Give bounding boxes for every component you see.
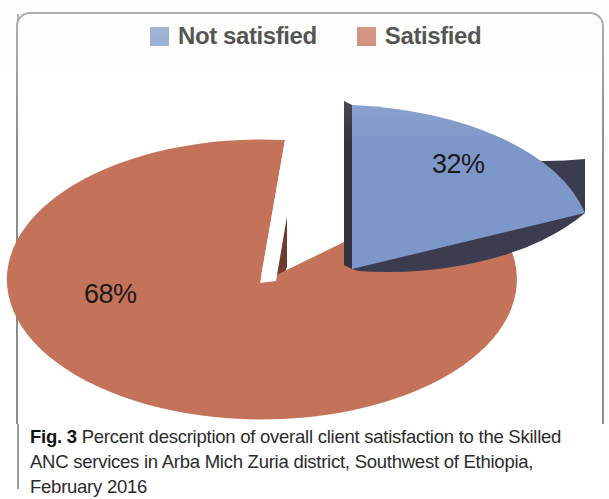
legend-swatch-not-satisfied-icon xyxy=(150,27,169,46)
figure-caption-tag: Fig. 3 xyxy=(30,426,77,447)
pie-slice-not-satisfied-left-wall xyxy=(344,101,352,269)
legend-item-not-satisfied[interactable]: Not satisfied xyxy=(150,24,317,48)
figure-caption: Fig. 3 Percent description of overall cl… xyxy=(30,424,597,499)
chart-legend: Not satisfied Satisfied xyxy=(150,24,481,48)
pie-label-satisfied: 68% xyxy=(84,279,137,309)
legend-swatch-satisfied-icon xyxy=(357,27,376,46)
legend-item-satisfied[interactable]: Satisfied xyxy=(357,24,481,48)
pie-chart: 68% 32% xyxy=(0,55,609,425)
legend-label-not-satisfied: Not satisfied xyxy=(178,24,317,48)
pie-slice-not-satisfied: 32% xyxy=(344,101,585,272)
legend-label-satisfied: Satisfied xyxy=(385,24,481,48)
figure-caption-text: Percent description of overall client sa… xyxy=(30,426,561,497)
pie-label-not-satisfied: 32% xyxy=(432,149,485,179)
